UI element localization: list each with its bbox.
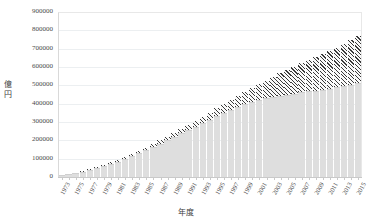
bar-column: [355, 12, 362, 177]
bar-segment-bottom: [291, 94, 297, 178]
x-axis-title: 年度: [0, 206, 371, 217]
bar-column: [333, 12, 340, 177]
bar-segment-bottom: [150, 147, 156, 177]
bar-segment-bottom: [129, 156, 135, 177]
y-axis-tick-label: 800000: [32, 26, 53, 33]
y-axis-tick-labels: 9000008000007000006000005000004000003000…: [0, 0, 56, 189]
bar-segment-top: [214, 108, 220, 116]
bar-column: [192, 12, 199, 177]
x-axis-tick-label: 1985: [143, 181, 156, 196]
x-axis-tickmark: [125, 178, 126, 180]
x-axis-tickmark: [351, 178, 352, 180]
y-axis-tick-label: 0: [50, 173, 54, 180]
bar-segment-bottom: [284, 95, 290, 177]
bar-series-group: [58, 12, 362, 177]
bar-segment-bottom: [228, 110, 234, 177]
bar-segment-bottom: [143, 150, 149, 177]
bar-segment-top: [348, 40, 354, 85]
bar-column: [72, 12, 79, 177]
x-axis-tick-label: 1979: [100, 181, 113, 196]
bar-segment-top: [291, 67, 297, 94]
bar-column: [348, 12, 355, 177]
bar-column: [150, 12, 157, 177]
bar-column: [242, 12, 249, 177]
bar-segment-bottom: [193, 127, 199, 178]
bar-segment-bottom: [298, 92, 304, 177]
bar-column: [341, 12, 348, 177]
bar-column: [129, 12, 136, 177]
bar-segment-bottom: [207, 120, 213, 177]
bar-column: [199, 12, 206, 177]
bar-segment-bottom: [122, 159, 128, 177]
x-axis-tickmark: [189, 178, 190, 180]
y-axis-tick-label: 200000: [32, 136, 53, 143]
plot-area: [58, 12, 362, 177]
x-axis-tick-label: 1981: [115, 181, 128, 196]
bar-column: [86, 12, 93, 177]
x-axis-tickmark: [337, 178, 338, 180]
x-axis-tickmark: [295, 178, 296, 180]
bar-segment-bottom: [185, 130, 191, 177]
bar-column: [256, 12, 263, 177]
x-axis-tickmark: [153, 178, 154, 180]
bar-column: [93, 12, 100, 177]
bar-segment-bottom: [306, 91, 312, 177]
bar-segment-bottom: [270, 97, 276, 177]
x-axis-tick-label: 2013: [341, 181, 354, 196]
x-axis-tick-label: 1997: [228, 181, 241, 196]
bar-column: [298, 12, 305, 177]
x-axis-tickmark: [309, 178, 310, 180]
x-axis-tick-label: 1977: [86, 181, 99, 196]
x-axis-tickmark: [132, 178, 133, 180]
bar-column: [284, 12, 291, 177]
bar-segment-top: [228, 100, 234, 110]
x-axis-tickmark: [288, 178, 289, 180]
bar-segment-top: [306, 60, 312, 91]
bar-column: [171, 12, 178, 177]
x-axis-tickmark: [111, 178, 112, 180]
x-axis-tickmark: [146, 178, 147, 180]
bar-segment-top: [355, 36, 361, 83]
bar-column: [326, 12, 333, 177]
x-axis-tickmark: [217, 178, 218, 180]
x-axis-tickmark: [210, 178, 211, 180]
bar-segment-bottom: [277, 96, 283, 177]
x-axis-tickmark: [168, 178, 169, 180]
bar-segment-bottom: [341, 86, 347, 177]
bar-segment-bottom: [171, 137, 177, 177]
x-axis-tickmark: [90, 178, 91, 180]
bar-column: [206, 12, 213, 177]
bar-segment-top: [235, 96, 241, 107]
bar-column: [157, 12, 164, 177]
bar-segment-top: [341, 44, 347, 86]
bar-segment-bottom: [320, 90, 326, 177]
x-axis-tickmark: [231, 178, 232, 180]
x-axis-tick-label: 1993: [199, 181, 212, 196]
bar-segment-top: [221, 104, 227, 113]
bar-column: [164, 12, 171, 177]
x-axis-tick-label: 1995: [214, 181, 227, 196]
x-axis-tick-label: 2007: [298, 181, 311, 196]
x-axis-tickmark: [62, 178, 63, 180]
x-axis-tick-label: 1973: [58, 181, 71, 196]
bar-segment-bottom: [313, 91, 319, 177]
bar-segment-top: [263, 81, 269, 99]
bar-segment-top: [313, 57, 319, 90]
x-axis-tickmark: [238, 178, 239, 180]
bar-segment-top: [284, 70, 290, 95]
bar-segment-bottom: [235, 107, 241, 177]
bar-segment-bottom: [136, 153, 142, 177]
bar-column: [228, 12, 235, 177]
y-axis-tick-label: 700000: [32, 45, 53, 52]
x-axis-tick-label: 2005: [284, 181, 297, 196]
x-axis-tickmark: [76, 178, 77, 180]
x-axis-tickmark: [203, 178, 204, 180]
x-axis-tick-label: 2011: [327, 181, 339, 196]
x-axis-tick-label: 2015: [355, 181, 368, 196]
bar-column: [249, 12, 256, 177]
x-axis-tickmark: [104, 178, 105, 180]
x-axis-tick-label: 1987: [157, 181, 170, 196]
bar-segment-bottom: [87, 170, 93, 177]
x-axis-tick-label: 2009: [313, 181, 326, 196]
bar-segment-bottom: [157, 144, 163, 177]
